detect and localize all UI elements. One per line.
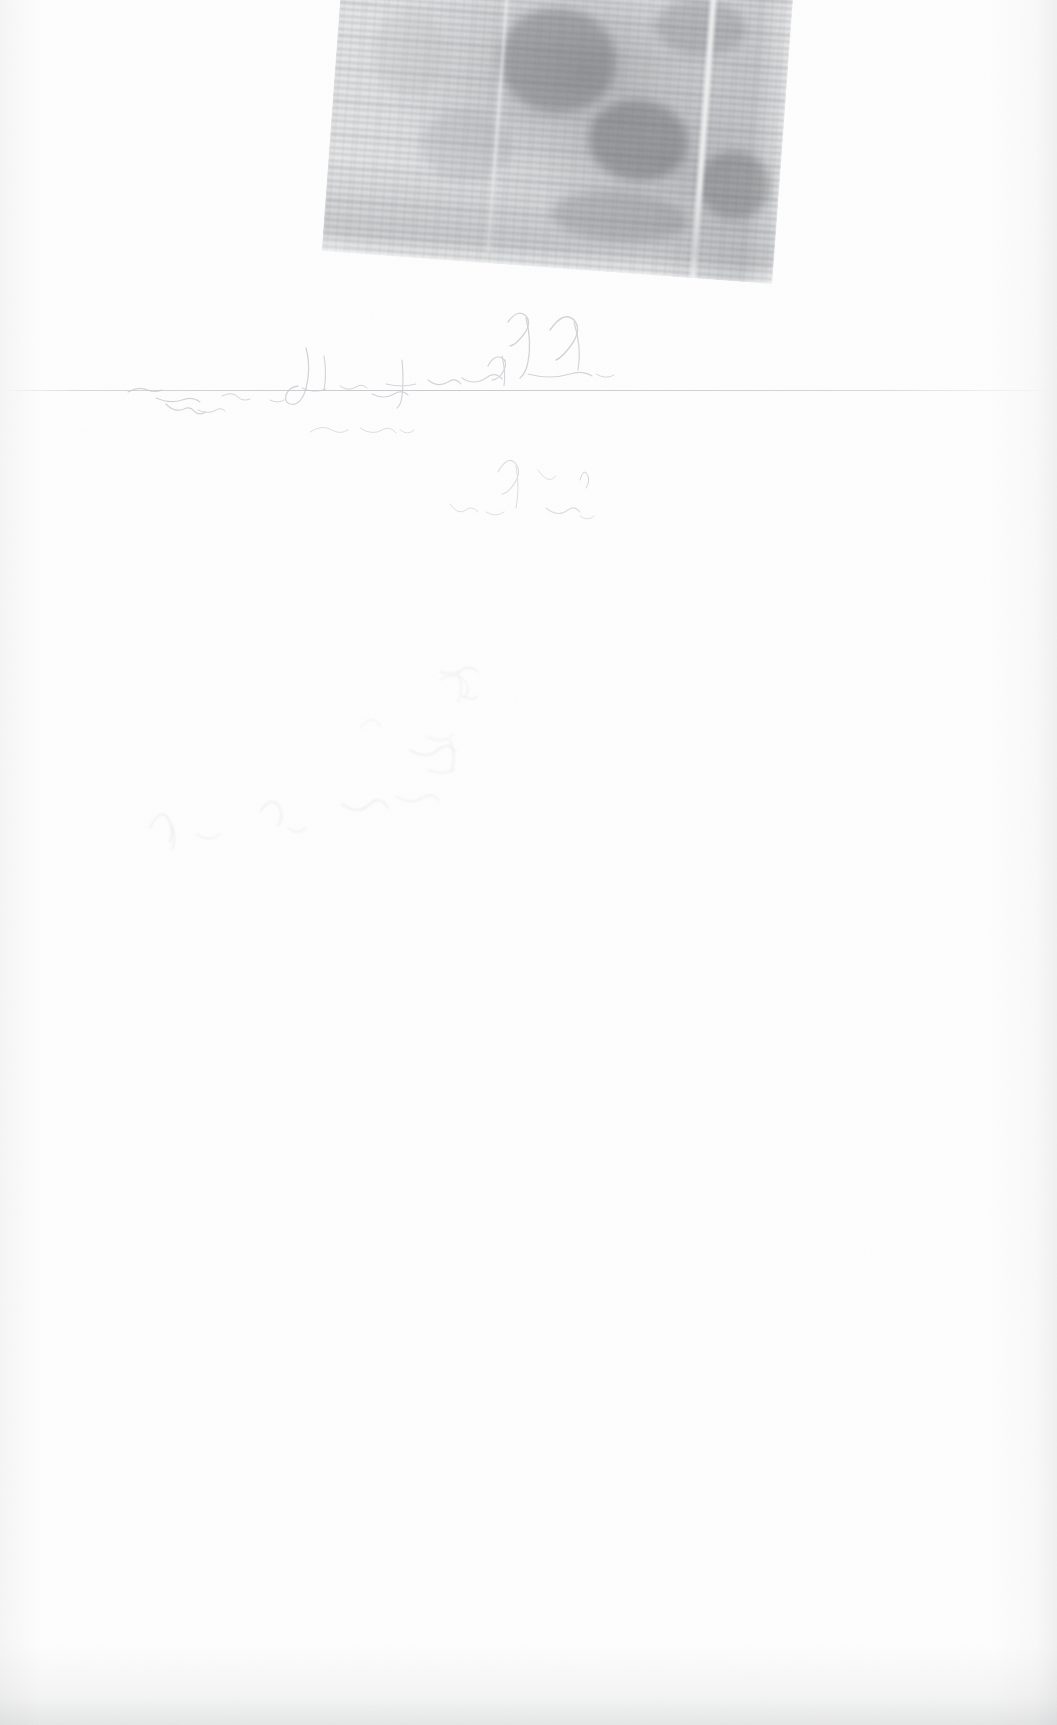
clipping-body [322, 0, 795, 284]
newspaper-clipping-ghost [322, 0, 795, 284]
clipping-edge-shading [322, 0, 795, 284]
scanned-page: Blank verso of a scanned page showing bl… [0, 0, 1057, 1725]
ruled-line [0, 390, 1057, 391]
